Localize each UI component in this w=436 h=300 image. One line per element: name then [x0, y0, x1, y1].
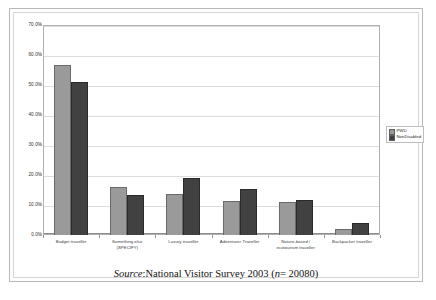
- bar-pwd[interactable]: [279, 202, 296, 235]
- x-tick-label: Luxury traveller: [155, 239, 211, 261]
- x-tick-mark: [268, 235, 269, 238]
- x-tick-mark: [155, 235, 156, 238]
- chart-legend[interactable]: PWDNonDisabled: [386, 126, 424, 143]
- y-tick-mark: [39, 55, 42, 56]
- y-tick-mark: [39, 175, 42, 176]
- x-tick-label: Adventurer Traveller: [212, 239, 268, 261]
- bar-nondisabled[interactable]: [240, 189, 257, 235]
- bar-group: [268, 25, 324, 235]
- bar-group: [324, 25, 380, 235]
- bar-nondisabled[interactable]: [183, 178, 200, 235]
- x-tick-label-line: (SPECIFY): [100, 245, 154, 251]
- bar-nondisabled[interactable]: [296, 200, 313, 235]
- bar-nondisabled[interactable]: [352, 223, 369, 235]
- bar-pwd[interactable]: [54, 65, 71, 235]
- bar-pwd[interactable]: [166, 194, 183, 235]
- legend-item[interactable]: NonDisabled: [389, 135, 421, 141]
- figure-inner-border: 0.0%10.0%20.0%30.0%40.0%50.0%60.0%70.0% …: [13, 12, 419, 278]
- x-tick-mark: [380, 235, 381, 238]
- y-tick-mark: [39, 145, 42, 146]
- bar-chart: 0.0%10.0%20.0%30.0%40.0%50.0%60.0%70.0% …: [14, 13, 422, 261]
- x-tick-label: Budget traveller: [43, 239, 99, 261]
- bar-group: [212, 25, 268, 235]
- y-tick-mark: [39, 235, 42, 236]
- x-tick-mark: [212, 235, 213, 238]
- x-tick-mark: [43, 235, 44, 238]
- bar-pwd[interactable]: [110, 187, 127, 235]
- figure-frame: 0.0%10.0%20.0%30.0%40.0%50.0%60.0%70.0% …: [9, 8, 423, 282]
- bar-group: [43, 25, 99, 235]
- x-tick-label: Something else(SPECIFY): [99, 239, 155, 261]
- y-tick-mark: [39, 205, 42, 206]
- x-tick-label-line: Backpacker traveller: [325, 239, 379, 245]
- bar-nondisabled[interactable]: [71, 82, 88, 235]
- figure-caption: Source: National Visitor Survey 2003 (n …: [14, 263, 418, 283]
- caption-source-word: Source: [114, 268, 143, 279]
- bar-group: [155, 25, 211, 235]
- x-tick-mark: [99, 235, 100, 238]
- legend-label: PWD: [397, 129, 407, 133]
- caption-n-value: = 20080): [280, 268, 318, 279]
- y-tick-mark: [39, 85, 42, 86]
- x-tick-label-line: Adventurer Traveller: [213, 239, 267, 245]
- bar-pwd[interactable]: [223, 201, 240, 235]
- x-tick-label-line: Luxury traveller: [156, 239, 210, 245]
- y-tick-mark: [39, 25, 42, 26]
- x-tick-label-line: Budget traveller: [44, 239, 98, 245]
- x-axis-ticks: [43, 235, 380, 238]
- bar-nondisabled[interactable]: [127, 195, 144, 235]
- x-tick-label-line: ecotourism traveller: [269, 245, 323, 251]
- legend-label: NonDisabled: [397, 135, 422, 139]
- caption-survey-text: National Visitor Survey 2003 (: [145, 268, 274, 279]
- x-tick-label: Backpacker traveller: [324, 239, 380, 261]
- bar-groups: [43, 25, 380, 235]
- bar-group: [99, 25, 155, 235]
- x-tick-mark: [324, 235, 325, 238]
- legend-swatch-icon: [389, 135, 395, 141]
- x-axis-labels: Budget travellerSomething else(SPECIFY)L…: [43, 239, 380, 261]
- y-tick-mark: [39, 115, 42, 116]
- y-axis: 0.0%10.0%20.0%30.0%40.0%50.0%60.0%70.0%: [14, 25, 42, 235]
- x-tick-label: Nature-based /ecotourism traveller: [268, 239, 324, 261]
